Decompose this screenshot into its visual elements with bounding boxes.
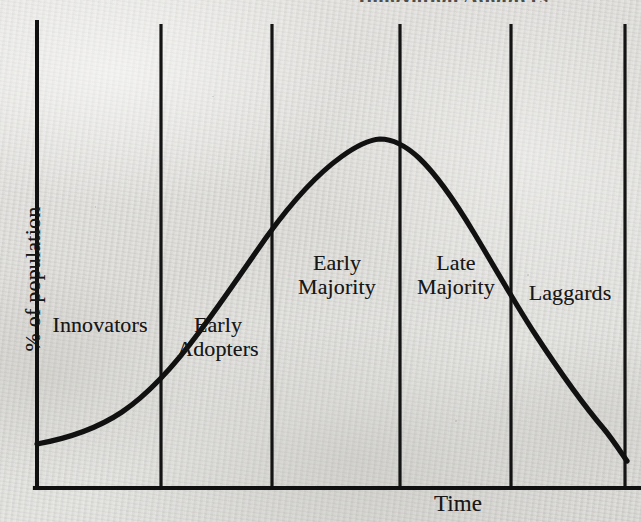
segment-label-laggards: Laggards [514,281,626,305]
y-axis-label: % of population [20,184,46,374]
segment-label-innovators: Innovators [38,313,162,337]
x-axis-label: Time [434,492,544,517]
segment-label-early-majority: Early Majority [276,251,398,298]
figure-canvas: Innovation Adopters % of population Time… [0,0,641,522]
segment-label-early-adopters: Early Adopters [166,313,270,360]
segment-label-late-majority: Late Majority [404,251,508,298]
